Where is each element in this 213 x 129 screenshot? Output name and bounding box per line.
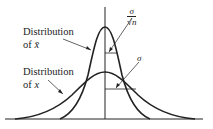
x-symbol: x [34, 79, 39, 90]
population-distribution-label-line1: Distribution [23, 66, 74, 77]
std-error-label: σ √n [127, 6, 136, 28]
population-distribution-label-line2: of x [23, 79, 39, 90]
sampling-distribution-diagram: Distribution of x̄ Distribution of x σ √… [0, 0, 213, 129]
sample-mean-label-arrowhead [86, 46, 91, 50]
n-symbol: n [132, 17, 137, 27]
diagram-canvas [0, 0, 213, 129]
sample-mean-distribution-label-line2: of x̄ [23, 39, 39, 50]
sigma-numerator: σ [127, 6, 136, 17]
sqrt-n-denominator: √n [127, 17, 136, 28]
x-bar-symbol: x̄ [34, 39, 39, 50]
std-error-arrowhead [109, 47, 113, 52]
sample-mean-distribution-label-line1: Distribution [23, 26, 74, 37]
std-dev-label: σ [137, 53, 141, 63]
of-text: of [23, 79, 34, 90]
of-text: of [23, 39, 34, 50]
